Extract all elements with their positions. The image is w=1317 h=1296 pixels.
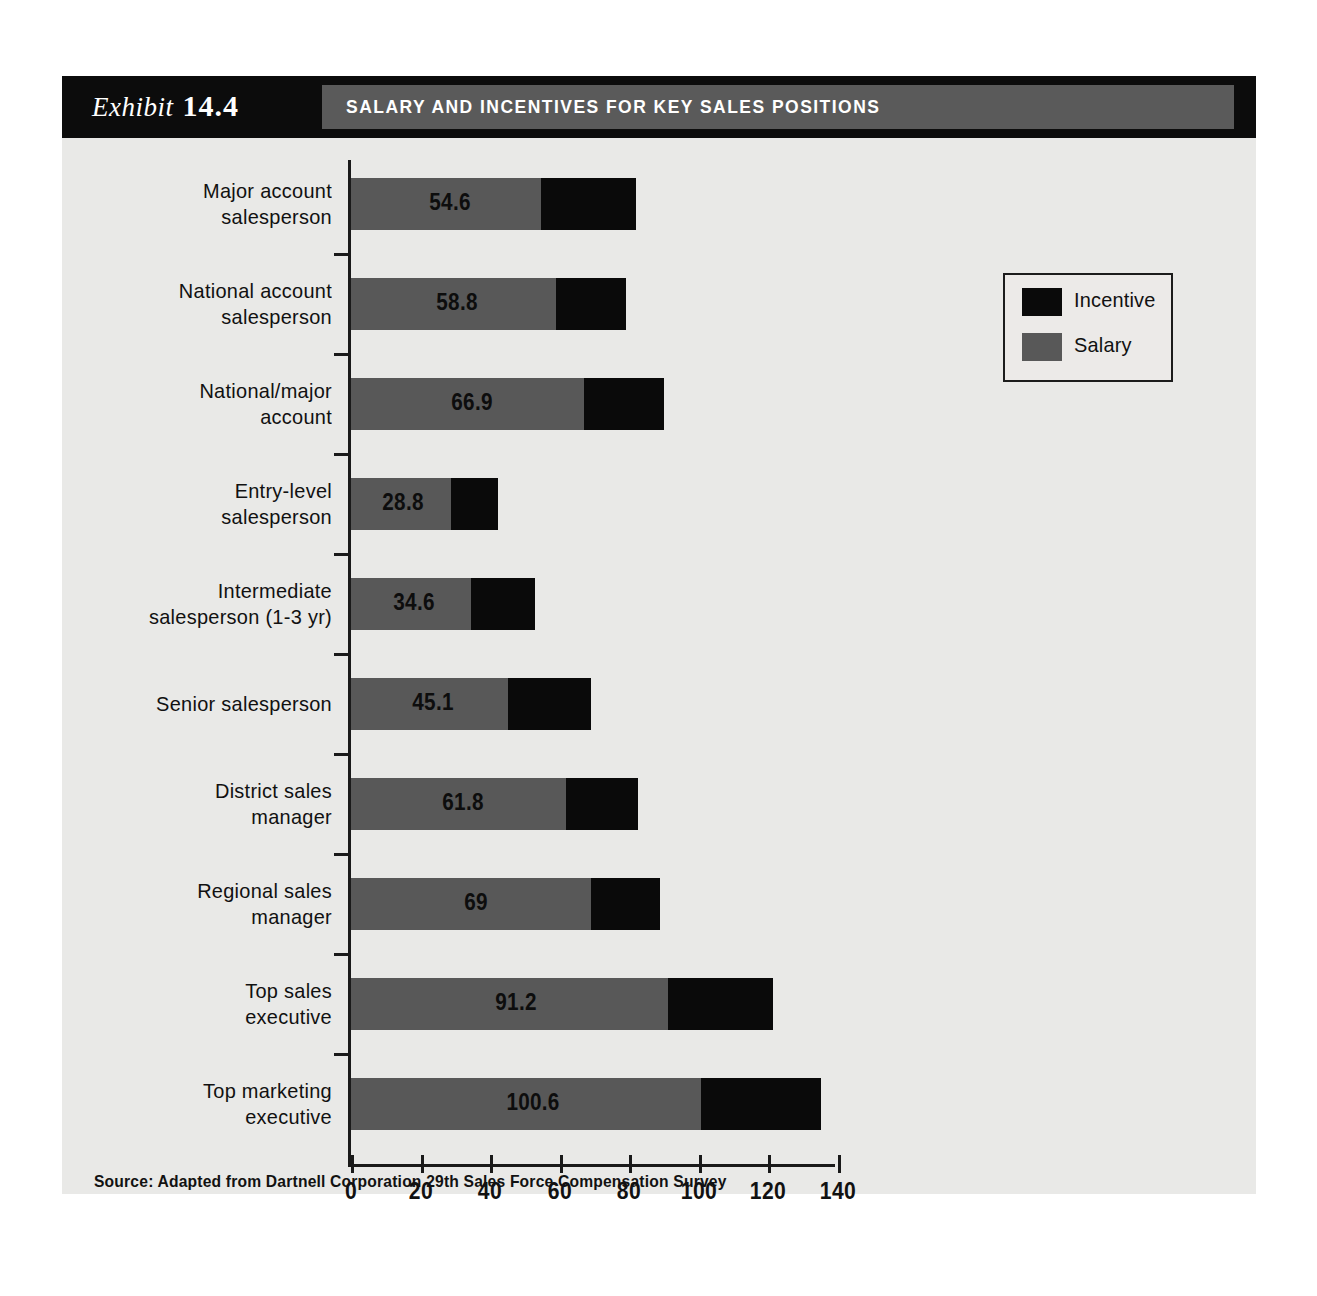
bar-value-label: 34.6 bbox=[393, 589, 434, 616]
y-tick bbox=[334, 553, 351, 556]
category-label: Top marketingexecutive bbox=[85, 1078, 332, 1130]
category-label: Major accountsalesperson bbox=[85, 178, 332, 230]
source-note: Source: Adapted from Dartnell Corporatio… bbox=[94, 1172, 727, 1192]
bar-row: District salesmanager61.8 bbox=[62, 760, 1256, 848]
bar-value-label: 100.6 bbox=[506, 1089, 559, 1116]
legend-swatch-incentive bbox=[1022, 288, 1062, 316]
legend-swatch-salary bbox=[1022, 333, 1062, 361]
bar-value-label: 61.8 bbox=[442, 789, 483, 816]
bar-row: Major accountsalesperson54.6 bbox=[62, 160, 1256, 248]
exhibit-title-box: SALARY AND INCENTIVES FOR KEY SALES POSI… bbox=[322, 85, 1234, 129]
exhibit-word: Exhibit bbox=[92, 92, 173, 122]
category-label: Senior salesperson bbox=[85, 691, 332, 717]
exhibit-figure: Exhibit14.4 SALARY AND INCENTIVES FOR KE… bbox=[62, 76, 1256, 1194]
bar-value-label: 54.6 bbox=[429, 189, 470, 216]
bar-row: Top marketingexecutive100.6 bbox=[62, 1060, 1256, 1148]
x-tick bbox=[629, 1155, 632, 1173]
category-label: Entry-levelsalesperson bbox=[85, 478, 332, 530]
bar-row: Entry-levelsalesperson28.8 bbox=[62, 460, 1256, 548]
bar-value-label: 28.8 bbox=[382, 489, 423, 516]
x-tick-label: 120 bbox=[750, 1177, 787, 1205]
x-tick bbox=[699, 1155, 702, 1173]
x-tick-label: 140 bbox=[820, 1177, 857, 1205]
category-label: Regional salesmanager bbox=[85, 878, 332, 930]
y-tick bbox=[334, 353, 351, 356]
y-tick bbox=[334, 253, 351, 256]
legend-label-incentive: Incentive bbox=[1074, 288, 1156, 312]
exhibit-label: Exhibit14.4 bbox=[92, 89, 239, 123]
category-label: District salesmanager bbox=[85, 778, 332, 830]
bar-segment-incentive bbox=[701, 1078, 821, 1130]
bar-value-label: 58.8 bbox=[437, 289, 478, 316]
x-tick bbox=[768, 1155, 771, 1173]
x-tick bbox=[351, 1155, 354, 1173]
exhibit-number: 14.4 bbox=[182, 89, 239, 122]
bar-row: Senior salesperson45.1 bbox=[62, 660, 1256, 748]
x-tick bbox=[490, 1155, 493, 1173]
bar-segment-incentive bbox=[556, 278, 626, 330]
y-tick bbox=[334, 1053, 351, 1056]
y-tick bbox=[334, 753, 351, 756]
bar-row: Intermediatesalesperson (1-3 yr)34.6 bbox=[62, 560, 1256, 648]
category-label: National accountsalesperson bbox=[85, 278, 332, 330]
bar-value-label: 69 bbox=[464, 889, 488, 916]
chart-legend: Incentive Salary bbox=[1003, 273, 1173, 382]
x-tick bbox=[560, 1155, 563, 1173]
y-tick bbox=[334, 653, 351, 656]
x-tick bbox=[838, 1155, 841, 1173]
category-label: National/majoraccount bbox=[85, 378, 332, 430]
bar-value-label: 91.2 bbox=[495, 989, 536, 1016]
bar-segment-incentive bbox=[668, 978, 773, 1030]
bar-segment-incentive bbox=[471, 578, 534, 630]
bar-segment-incentive bbox=[451, 478, 498, 530]
bar-value-label: 66.9 bbox=[451, 389, 492, 416]
category-label: Intermediatesalesperson (1-3 yr) bbox=[85, 578, 332, 630]
bar-row: Top salesexecutive91.2 bbox=[62, 960, 1256, 1048]
y-tick bbox=[334, 853, 351, 856]
x-tick bbox=[421, 1155, 424, 1173]
bar-row: Regional salesmanager69 bbox=[62, 860, 1256, 948]
chart-plot-area: 020406080100120140 Major accountsalesper… bbox=[62, 138, 1256, 1194]
y-tick bbox=[334, 953, 351, 956]
exhibit-header: Exhibit14.4 SALARY AND INCENTIVES FOR KE… bbox=[62, 76, 1256, 138]
bar-value-label: 45.1 bbox=[412, 689, 453, 716]
category-label: Top salesexecutive bbox=[85, 978, 332, 1030]
legend-label-salary: Salary bbox=[1074, 333, 1132, 357]
bar-segment-incentive bbox=[541, 178, 636, 230]
y-tick bbox=[334, 453, 351, 456]
bar-segment-incentive bbox=[566, 778, 638, 830]
bar-segment-incentive bbox=[584, 378, 664, 430]
bar-segment-incentive bbox=[591, 878, 660, 930]
exhibit-title: SALARY AND INCENTIVES FOR KEY SALES POSI… bbox=[346, 96, 880, 118]
bar-segment-incentive bbox=[508, 678, 591, 730]
